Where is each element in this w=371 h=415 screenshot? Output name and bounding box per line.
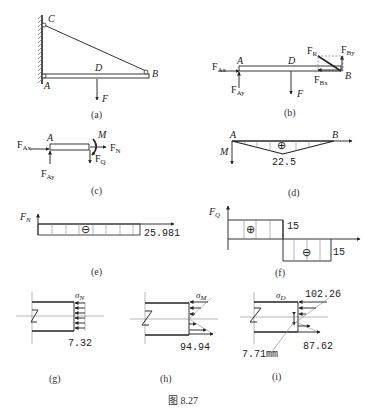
- panel-a-structure: C A D B F (a): [38, 13, 158, 121]
- value-7-71mm: 7.71mm: [242, 349, 278, 360]
- caption-a: (a): [91, 109, 102, 121]
- label-sigma-m: σM: [196, 290, 207, 302]
- value-25-981: 25.981: [144, 228, 180, 239]
- caption-f: (f): [275, 267, 285, 279]
- break-symbol-i: [250, 308, 261, 322]
- caption-e: (e): [91, 266, 102, 278]
- label-fn-e: FN: [19, 211, 31, 224]
- label-fq-c: FQ: [95, 153, 106, 166]
- stress-envelope-bottom-i: [296, 322, 320, 333]
- panel-c-segment: FAx A M FN FQ FAy (c): [17, 129, 121, 197]
- panel-h-bending-stress: σM 94.94 (h): [130, 290, 218, 385]
- axial-hatch: [52, 224, 133, 235]
- panel-d-moment-diagram: ⊕ A B M 22.5 (d): [219, 129, 352, 199]
- panel-b-free-body: FAx A D B FAy F FR FBy FBx (b): [212, 44, 355, 119]
- label-fay: FAy: [231, 84, 245, 97]
- label-a-d: A: [229, 129, 237, 140]
- label-fax: FAx: [212, 61, 227, 74]
- caption-d: (d): [288, 187, 300, 199]
- panel-e-axial-force-diagram: ⊖ FN 25.981 (e): [19, 211, 180, 278]
- segment-ad: [50, 144, 89, 150]
- pin-a: [42, 74, 46, 78]
- label-fax-c: FAx: [17, 139, 32, 152]
- label-b: B: [152, 68, 158, 79]
- stress-arrows-g: [75, 303, 85, 328]
- label-fbx: FBx: [314, 74, 328, 87]
- negative-sign: ⊖: [81, 223, 90, 235]
- stress-envelope-bottom-h: [189, 319, 213, 334]
- value-15-pos: 15: [287, 221, 299, 232]
- label-fby: FBy: [341, 44, 355, 57]
- value-22-5: 22.5: [272, 157, 296, 168]
- label-f-b: F: [296, 88, 304, 99]
- panel-g-axial-stress: σN 7.32 (g): [16, 290, 104, 385]
- panel-i-combined-stress: σD 102.26 87.62 7.71mm (i): [240, 289, 341, 383]
- caption-g: (g): [49, 373, 61, 385]
- value-15-neg: 15: [333, 247, 345, 258]
- shear-outline: [228, 220, 331, 261]
- label-fq-f: FQ: [208, 206, 220, 219]
- figure-caption: 图 8.27: [168, 395, 198, 406]
- caption-h: (h): [160, 373, 172, 385]
- label-fay-c: FAy: [41, 168, 55, 181]
- label-b-d: B: [332, 129, 338, 140]
- label-m-d: M: [219, 146, 229, 157]
- negative-sign-f: ⊖: [302, 246, 311, 258]
- label-a-b: A: [236, 55, 244, 66]
- label-sigma-n: σN: [75, 290, 84, 302]
- label-b-b: B: [345, 70, 351, 81]
- value-94-94: 94.94: [180, 342, 210, 353]
- pin-c: [42, 23, 46, 27]
- figure-8-27: C A D B F (a) FAx A D B FAy F FR FBy FBx…: [0, 0, 371, 415]
- stress-arrows-h: [189, 302, 213, 334]
- caption-c: (c): [91, 185, 102, 197]
- label-fr: FR: [307, 45, 318, 58]
- label-f: F: [101, 93, 109, 104]
- beam-ab: [44, 74, 149, 78]
- label-sigma-d: σD: [276, 290, 286, 302]
- label-m-c: M: [97, 129, 107, 140]
- positive-sign: ⊕: [277, 139, 286, 151]
- label-a-c: A: [46, 132, 54, 143]
- caption-i: (i): [272, 371, 281, 383]
- label-fn-c: FN: [110, 142, 121, 155]
- pin-b: [144, 70, 148, 74]
- label-c: C: [48, 13, 55, 24]
- value-7-32: 7.32: [68, 338, 92, 349]
- panel-f-shear-diagram: ⊕ ⊖ FQ 15 15 (f): [208, 206, 360, 279]
- value-102-26: 102.26: [305, 289, 341, 300]
- positive-sign-f: ⊕: [246, 223, 255, 235]
- label-d-b: D: [287, 55, 296, 66]
- caption-b: (b): [284, 107, 296, 119]
- value-87-62: 87.62: [303, 341, 333, 352]
- break-symbol-h: [142, 311, 152, 325]
- label-a: A: [43, 80, 51, 91]
- label-d: D: [94, 62, 103, 73]
